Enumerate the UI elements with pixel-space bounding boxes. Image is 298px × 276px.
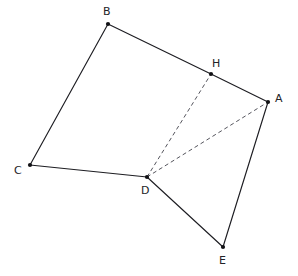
- edge-a-e: [223, 102, 268, 247]
- vertex-dot-b: [106, 22, 110, 26]
- edge-d-a-dashed: [147, 102, 268, 177]
- edge-d-h-dashed: [147, 74, 211, 177]
- vertex-dot-e: [221, 245, 225, 249]
- vertex-label-c: C: [14, 165, 22, 176]
- vertex-dot-h: [209, 72, 213, 76]
- vertex-dot-c: [28, 163, 32, 167]
- vertex-dot-d: [145, 175, 149, 179]
- edge-b-c: [30, 24, 108, 165]
- edge-e-d: [147, 177, 223, 247]
- vertex-label-d: D: [141, 185, 149, 196]
- vertex-label-e: E: [219, 255, 226, 266]
- vertex-label-b: B: [103, 6, 111, 17]
- geometry-figure: A B C D E H: [0, 0, 298, 276]
- edge-h-a: [211, 74, 268, 102]
- edge-b-h: [108, 24, 211, 74]
- geometry-canvas: [0, 0, 298, 276]
- edge-c-d: [30, 165, 147, 177]
- vertex-dot-a: [266, 100, 270, 104]
- vertex-label-h: H: [212, 58, 220, 69]
- vertex-label-a: A: [275, 93, 283, 104]
